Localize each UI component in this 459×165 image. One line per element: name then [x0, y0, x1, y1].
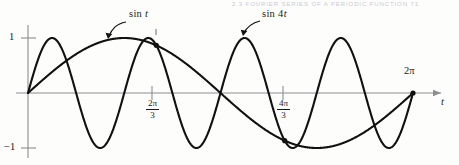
- endpoint-2pi: [410, 90, 415, 95]
- callout-arrowhead-sin-t: [106, 33, 113, 39]
- callout-label-sin-4t-variable: t: [284, 8, 287, 19]
- x-axis-arrowhead: [433, 90, 441, 96]
- fraction-denominator: 3: [145, 110, 160, 120]
- intersection-near-4pi-over-3: [282, 138, 287, 143]
- x-axis-end-label-two-pi: 2π: [404, 65, 415, 76]
- callout-label-sin-t-prefix: sin: [129, 8, 145, 19]
- x-axis-variable-label: t: [441, 96, 444, 107]
- fraction-numerator: 4π: [276, 99, 291, 109]
- callout-label-sin-t: sin t: [129, 8, 148, 19]
- callout-label-sin-4t-prefix: sin 4: [262, 8, 284, 19]
- x-axis-label-two-pi-over-three: 2π 3: [145, 99, 160, 120]
- callout-arrowhead-sin-4t: [241, 30, 248, 36]
- x-axis-label-four-pi-over-three: 4π 3: [276, 99, 291, 120]
- intersection-near-2pi-over-3: [154, 43, 159, 48]
- fraction-numerator: 2π: [145, 99, 160, 109]
- fraction-denominator: 3: [276, 110, 291, 120]
- plot-svg: [0, 0, 459, 165]
- figure-container: 2.3 FOURIER SERIES OF A PERIODIC FUNCTIO…: [0, 0, 459, 165]
- callout-label-sin-4t: sin 4t: [262, 8, 287, 19]
- callout-label-sin-t-variable: t: [145, 8, 148, 19]
- y-axis-label-negative-one: −1: [4, 141, 15, 152]
- y-axis-label-positive-one: 1: [9, 31, 14, 42]
